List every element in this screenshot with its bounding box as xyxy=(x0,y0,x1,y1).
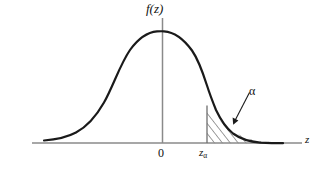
critical-value-subscript: α xyxy=(203,151,207,160)
origin-label: 0 xyxy=(158,147,164,159)
alpha-annotation-arrow xyxy=(233,93,250,125)
distribution-plot-svg xyxy=(0,0,322,170)
critical-value-label: zα xyxy=(199,147,207,160)
normal-curve xyxy=(44,31,283,143)
x-axis-label: z xyxy=(305,134,309,145)
tail-area-label: α xyxy=(249,85,255,97)
normal-distribution-figure: f(z) 0 zα α z xyxy=(0,0,322,170)
density-function-label: f(z) xyxy=(146,2,163,15)
